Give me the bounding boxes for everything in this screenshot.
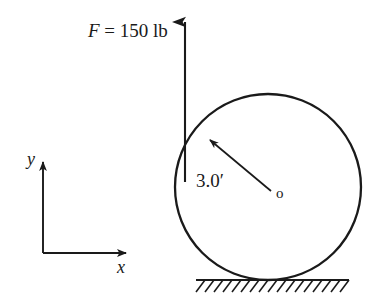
force-value: = 150 lb <box>100 20 168 41</box>
force-symbol: F <box>88 20 100 41</box>
free-body-diagram-figure: F = 150 lb 3.0′ o y x <box>0 0 368 308</box>
center-point-label: o <box>276 186 284 201</box>
x-axis-label: x <box>117 258 125 276</box>
radius-dimension-label: 3.0′ <box>196 171 224 190</box>
diagram-canvas <box>0 0 368 308</box>
ground-hatching <box>196 280 349 292</box>
y-axis-label: y <box>27 150 35 168</box>
force-label: F = 150 lb <box>88 21 168 40</box>
